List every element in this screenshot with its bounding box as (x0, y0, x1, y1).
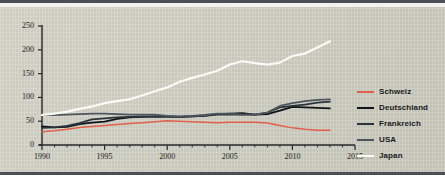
legend-item-schweiz[interactable]: Schweiz (357, 84, 445, 99)
legend-swatch-icon (357, 155, 374, 157)
legend-item-label: USA (379, 135, 396, 144)
data-series-group (42, 41, 330, 131)
legend-item-label: Schweiz (379, 87, 411, 96)
legend-item-frankreich[interactable]: Frankreich (357, 116, 445, 131)
legend-item-japan[interactable]: Japan (357, 148, 445, 163)
legend-item-deutschland[interactable]: Deutschland (357, 100, 445, 115)
legend-swatch-icon (357, 107, 374, 109)
chart-figure: 050100150200250 199019952000200520102015… (0, 0, 445, 181)
y-tick-label: 50 (10, 116, 34, 125)
legend-swatch-icon (357, 123, 374, 125)
x-tick-label: 2000 (152, 152, 182, 161)
legend-item-label: Japan (379, 151, 403, 160)
y-tick-label: 150 (10, 69, 34, 78)
legend-item-label: Frankreich (379, 119, 421, 128)
y-tick-label: 200 (10, 45, 34, 54)
x-tick-label: 2010 (277, 152, 307, 161)
series-line-schweiz (42, 121, 330, 132)
legend-swatch-icon (357, 91, 374, 93)
axes-group (38, 25, 355, 150)
legend-swatch-icon (357, 139, 374, 141)
x-tick-label: 1990 (27, 152, 57, 161)
x-tick-label: 2005 (215, 152, 245, 161)
x-tick-label: 1995 (90, 152, 120, 161)
y-tick-label: 0 (10, 140, 34, 149)
chart-legend: SchweizDeutschlandFrankreichUSAJapan (357, 84, 445, 164)
legend-item-usa[interactable]: USA (357, 132, 445, 147)
y-tick-label: 250 (10, 21, 34, 30)
legend-item-label: Deutschland (379, 103, 428, 112)
y-tick-label: 100 (10, 92, 34, 101)
